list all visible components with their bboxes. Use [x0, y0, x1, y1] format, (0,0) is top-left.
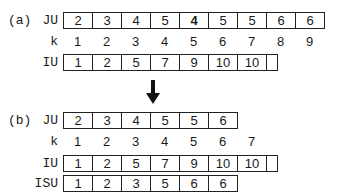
- index-value: 1: [63, 133, 92, 150]
- array-cell: 9: [180, 156, 209, 171]
- array-cell: 3: [93, 13, 122, 28]
- array-ju: 2 3 4 5 4 5 5 6 6: [63, 12, 325, 29]
- index-row: 1 2 3 4 5 6 7 8 9: [63, 33, 324, 50]
- index-value: 5: [179, 133, 208, 150]
- row-label-isu: ISU: [0, 175, 58, 192]
- array-cell: 2: [64, 113, 93, 128]
- array-cell: 5: [151, 13, 180, 28]
- array-cell: 1: [64, 156, 93, 171]
- array-cell: 4: [122, 113, 151, 128]
- array-cell: 7: [151, 55, 180, 70]
- array-cell: 5: [122, 55, 151, 70]
- array-cell: 5: [151, 113, 180, 128]
- array-cell: 5: [238, 13, 267, 28]
- index-value: 2: [92, 33, 121, 50]
- index-value: 8: [266, 33, 295, 50]
- row-label-ju: JU: [0, 112, 58, 129]
- index-value: 6: [208, 133, 237, 150]
- array-trailing-cell: [267, 55, 278, 70]
- index-value: 4: [150, 133, 179, 150]
- array-trailing-cell: [267, 156, 278, 171]
- array-cell: 5: [209, 13, 238, 28]
- array-cell: 6: [296, 13, 325, 28]
- array-cell: 2: [93, 55, 122, 70]
- down-arrow-icon: [146, 80, 160, 104]
- index-value: 4: [150, 33, 179, 50]
- index-value: 6: [208, 33, 237, 50]
- array-cell: 10: [238, 55, 267, 70]
- array-cell: 6: [209, 176, 238, 191]
- array-cell: 1: [64, 55, 93, 70]
- index-value: 7: [237, 133, 266, 150]
- array-cell: 4: [122, 13, 151, 28]
- array-cell: 3: [122, 176, 151, 191]
- array-cell: 6: [267, 13, 296, 28]
- array-cell: 2: [93, 156, 122, 171]
- array-cell: 10: [238, 156, 267, 171]
- array-cell: 1: [64, 176, 93, 191]
- array-cell: 9: [180, 55, 209, 70]
- array-iu: 1 2 5 7 9 10 10: [63, 54, 278, 71]
- index-value: 5: [179, 33, 208, 50]
- array-isu: 1 2 3 5 6 6: [63, 175, 238, 192]
- array-cell: 2: [93, 176, 122, 191]
- array-cell: 6: [180, 176, 209, 191]
- row-label-iu: IU: [0, 155, 58, 172]
- array-cell: 10: [209, 55, 238, 70]
- row-label-ju: JU: [0, 12, 58, 29]
- array-ju: 2 3 4 5 5 6: [63, 112, 238, 129]
- index-value: 3: [121, 133, 150, 150]
- array-cell: 5: [180, 113, 209, 128]
- index-row: 1 2 3 4 5 6 7: [63, 133, 266, 150]
- index-value: 7: [237, 33, 266, 50]
- index-value: 1: [63, 33, 92, 50]
- index-value: 3: [121, 33, 150, 50]
- row-label-k: k: [0, 133, 58, 150]
- array-cell: 2: [64, 13, 93, 28]
- array-cell: 7: [151, 156, 180, 171]
- array-cell: 5: [151, 176, 180, 191]
- array-cell: 3: [93, 113, 122, 128]
- array-cell: 6: [209, 113, 238, 128]
- array-iu: 1 2 5 7 9 10 10: [63, 155, 278, 172]
- array-cell-highlighted: 4: [180, 13, 209, 28]
- index-value: 2: [92, 133, 121, 150]
- array-cell: 10: [209, 156, 238, 171]
- array-cell: 5: [122, 156, 151, 171]
- row-label-k: k: [0, 33, 58, 50]
- index-value: 9: [295, 33, 324, 50]
- row-label-iu: IU: [0, 54, 58, 71]
